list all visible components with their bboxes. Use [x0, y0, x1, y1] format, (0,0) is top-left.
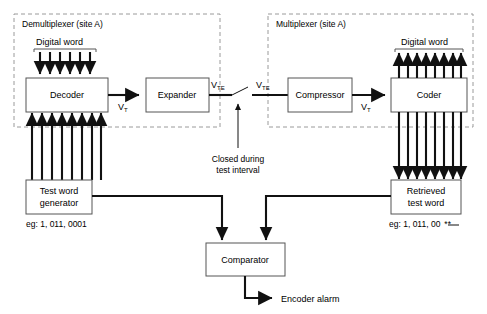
block-expander: Expander	[146, 78, 209, 112]
block-retrieved-test-word: Retrieved test word eg: 1, 011, 00**	[389, 180, 461, 229]
block-coder: Coder	[391, 78, 467, 112]
block-label-comparator: Comparator	[221, 255, 269, 265]
signal-label-vt-right: VT	[361, 102, 371, 113]
block-label-coder: Coder	[417, 90, 442, 100]
region-label-demultiplexer: Demultiplexer (site A)	[22, 19, 103, 29]
block-label-test-word-generator-line1: Test word	[40, 186, 79, 196]
left-digital-word-label: Digital word	[36, 37, 83, 47]
example-retrieved: eg: 1, 011, 00**	[389, 219, 452, 229]
block-label-expander: Expander	[158, 90, 197, 100]
switch-note-line1: Closed during	[212, 154, 265, 164]
block-diagram: Demultiplexer (site A) Multiplexer (site…	[0, 0, 487, 314]
block-compressor: Compressor	[288, 78, 352, 112]
link-compressor-coder: VT	[352, 95, 385, 113]
bus-generator-to-decoder	[32, 113, 101, 180]
link-generator-comparator	[92, 196, 222, 240]
right-digital-word-label: Digital word	[401, 37, 448, 47]
block-label-test-word-generator-line2: generator	[40, 198, 79, 208]
region-label-multiplexer: Multiplexer (site A)	[276, 19, 346, 29]
link-switch-compressor: VTE	[252, 80, 288, 95]
signal-label-vte-left: VTE	[211, 80, 225, 91]
block-comparator: Comparator	[206, 243, 285, 276]
switch-note: Closed during test interval	[212, 104, 265, 175]
block-decoder: Decoder	[26, 78, 108, 112]
signal-label-vt-left: VT	[118, 102, 128, 113]
switch-note-line2: test interval	[216, 165, 260, 175]
encoder-alarm-label: Encoder alarm	[281, 294, 340, 304]
block-label-decoder: Decoder	[50, 90, 84, 100]
right-digital-word-bus: Digital word	[395, 37, 463, 78]
example-generator: eg: 1, 011, 0001	[26, 219, 87, 229]
left-digital-word-bus: Digital word	[34, 37, 96, 74]
block-test-word-generator: Test word generator eg: 1, 011, 0001	[26, 180, 92, 229]
link-decoder-expander: VT	[108, 95, 139, 113]
output-encoder-alarm: Encoder alarm	[245, 276, 340, 304]
block-label-compressor: Compressor	[295, 90, 344, 100]
link-retrieved-comparator	[266, 196, 391, 240]
diagram-canvas: Demultiplexer (site A) Multiplexer (site…	[0, 0, 487, 314]
bus-coder-to-retrieved	[399, 112, 461, 179]
test-interval-switch[interactable]	[232, 87, 248, 95]
block-label-retrieved-test-word-line2: test word	[408, 198, 445, 208]
block-label-retrieved-test-word-line1: Retrieved	[407, 186, 446, 196]
